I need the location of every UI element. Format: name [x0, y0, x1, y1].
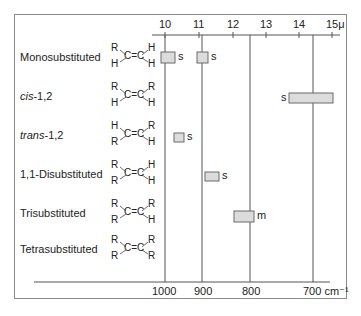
row-label-tetra: Tetrasubstituted [20, 243, 98, 255]
band-trans [174, 133, 184, 142]
row-label-tri: Trisubstituted [20, 207, 86, 219]
row-label-mono: Monosubstituted [20, 51, 101, 63]
top-tick-label: 14 [293, 18, 305, 30]
row-label-cis: cis-1,2 [20, 90, 52, 102]
intensity-label: s [281, 91, 287, 103]
intensity-label: s [222, 169, 228, 181]
bottom-tick-label: 900 [194, 285, 212, 297]
grid-lines [165, 35, 313, 282]
band-11-di [205, 172, 219, 181]
bottom-tick-label: 800 [242, 285, 260, 297]
top-tick-label: 10 [159, 18, 171, 30]
top-tick-label: 15μ [326, 18, 345, 30]
top-tick-label: 12 [227, 18, 239, 30]
top-tick-label: 11 [193, 18, 204, 30]
intensity-label: s [211, 50, 217, 62]
band-cis [289, 93, 333, 103]
chart-svg [0, 0, 361, 316]
row-label-11-di: 1,1-Disubstituted [20, 168, 103, 180]
bottom-tick-label: 700 cm⁻¹ [303, 285, 349, 298]
band-mono-1 [161, 52, 175, 63]
intensity-label: s [187, 130, 193, 142]
top-tick-label: 13 [260, 18, 272, 30]
intensity-label: m [257, 209, 266, 221]
row-label-trans: trans-1,2 [20, 129, 63, 141]
intensity-label: s [178, 50, 184, 62]
band-mono-2 [197, 52, 208, 63]
band-tri [234, 211, 254, 222]
bottom-tick-label: 1000 [152, 285, 176, 297]
structure-bonds [120, 50, 148, 254]
